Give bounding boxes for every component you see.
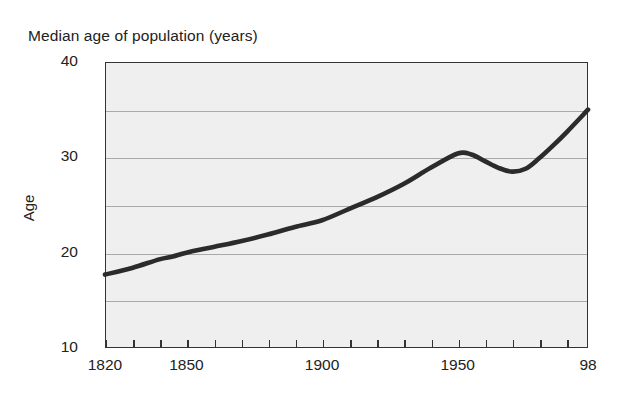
x-tick-mark <box>323 340 324 347</box>
x-tick-mark <box>242 340 243 347</box>
x-tick-mark <box>133 340 134 347</box>
gridline <box>106 301 587 302</box>
y-axis-label: Age <box>20 178 37 238</box>
x-tick-label: 98 <box>558 356 618 374</box>
y-tick-label: 40 <box>38 53 78 69</box>
x-tick-label: 1820 <box>75 356 135 374</box>
y-tick-label: 30 <box>38 148 78 164</box>
x-tick-mark <box>350 340 351 347</box>
x-tick-label: 1900 <box>292 356 352 374</box>
x-tick-mark <box>377 340 378 347</box>
x-tick-mark <box>160 340 161 347</box>
x-tick-mark <box>486 340 487 347</box>
x-tick-mark <box>296 340 297 347</box>
x-tick-mark <box>106 340 107 347</box>
x-tick-mark <box>404 340 405 347</box>
chart-figure: Median age of population (years) Age 102… <box>0 0 630 407</box>
x-tick-mark <box>432 340 433 347</box>
plot-area <box>105 62 588 348</box>
gridline <box>106 111 587 112</box>
x-tick-mark <box>187 340 188 347</box>
x-tick-label: 1850 <box>156 356 216 374</box>
x-tick-mark <box>459 340 460 347</box>
x-tick-mark <box>540 340 541 347</box>
gridline <box>106 206 587 207</box>
chart-title: Median age of population (years) <box>28 27 258 45</box>
x-tick-label: 1950 <box>428 356 488 374</box>
y-tick-label: 20 <box>38 244 78 260</box>
x-tick-mark <box>215 340 216 347</box>
x-tick-mark <box>513 340 514 347</box>
x-tick-mark <box>567 340 568 347</box>
gridline <box>106 158 587 159</box>
x-tick-mark <box>269 340 270 347</box>
gridline <box>106 254 587 255</box>
y-tick-label: 10 <box>38 339 78 355</box>
x-tick-mark <box>587 340 588 347</box>
